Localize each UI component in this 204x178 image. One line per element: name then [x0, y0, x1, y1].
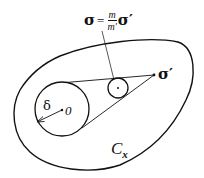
region-label: Cx: [111, 140, 128, 157]
formula-rhs: σ′: [118, 13, 133, 28]
formula-equals: =: [97, 14, 104, 27]
region-cx-boundary: [14, 40, 193, 170]
small-circle-center-point: [117, 87, 119, 89]
center-o-label: 0: [65, 104, 72, 117]
lower-tangent-line: [82, 75, 154, 128]
formula-lhs: σ: [84, 13, 95, 28]
formula: σ = m m′ σ′: [84, 9, 133, 32]
delta-label: δ: [43, 99, 51, 112]
region-label-subscript: x: [122, 148, 128, 160]
sigma-prime-label: σ′: [158, 67, 173, 82]
region-label-main: C: [111, 139, 122, 158]
formula-leader-line: [102, 31, 114, 80]
formula-denominator: m′: [107, 21, 116, 32]
formula-fraction: m m′: [107, 9, 116, 32]
sigma-prime-point: [153, 74, 156, 77]
formula-numerator: m: [108, 9, 117, 21]
